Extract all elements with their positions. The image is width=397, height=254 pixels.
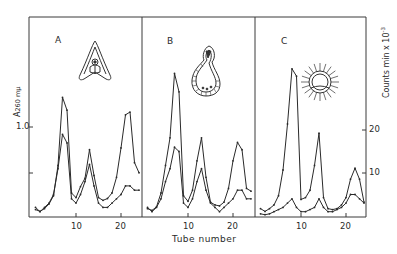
data-point: [345, 202, 347, 204]
data-point: [309, 209, 311, 211]
y-right-tick-10: 10: [369, 167, 380, 177]
data-point: [71, 198, 73, 200]
data-point: [66, 142, 68, 144]
data-point: [278, 209, 280, 211]
data-point: [178, 151, 180, 153]
data-point: [264, 214, 266, 216]
data-point: [309, 189, 311, 191]
data-point: [341, 207, 343, 209]
data-point: [48, 202, 50, 204]
data-point: [75, 197, 77, 199]
data-point: [363, 202, 365, 204]
data-point: [125, 185, 127, 187]
data-point: [196, 160, 198, 162]
data-point: [305, 197, 307, 199]
data-point: [260, 208, 262, 210]
y-left-tick-label: 1.0: [16, 121, 30, 131]
x-tick-a-10: 10: [71, 221, 82, 231]
panel-label-b: B: [167, 36, 173, 46]
data-point: [102, 207, 104, 209]
series-line-a-counts: [36, 134, 140, 211]
data-point: [129, 111, 131, 113]
data-point: [323, 197, 325, 199]
data-point: [214, 204, 216, 206]
data-point: [138, 172, 140, 174]
data-point: [174, 146, 176, 148]
y-axis-right-label-main: Counts min x 10: [382, 32, 391, 98]
data-point: [323, 207, 325, 209]
data-point: [336, 209, 338, 211]
x-tick-c-10: 10: [296, 221, 307, 231]
data-point: [296, 207, 298, 209]
data-point: [201, 137, 203, 139]
data-point: [39, 211, 41, 213]
y-axis-right-label-exp: -3: [380, 27, 386, 32]
data-point: [291, 68, 293, 70]
data-point: [241, 149, 243, 151]
data-point: [62, 96, 64, 98]
data-point: [269, 213, 271, 215]
data-point: [183, 202, 185, 204]
data-point: [134, 189, 136, 191]
data-point: [228, 188, 230, 190]
data-point: [129, 185, 131, 187]
data-point: [350, 194, 352, 196]
data-point: [237, 142, 239, 144]
data-point: [318, 132, 320, 134]
data-point: [232, 160, 234, 162]
data-point: [165, 165, 167, 167]
data-point: [241, 189, 243, 191]
data-point: [228, 202, 230, 204]
data-point: [246, 188, 248, 190]
data-point: [327, 208, 329, 210]
data-point: [93, 175, 95, 177]
data-point: [57, 168, 59, 170]
data-point: [116, 198, 118, 200]
x-tick-b-20: 20: [227, 221, 238, 231]
data-point: [278, 195, 280, 197]
y-axis-left-label-sub: 260 mμ: [14, 87, 22, 112]
x-tick-c-20: 20: [340, 221, 351, 231]
y-axis-right-label: Counts min x 10-3: [380, 27, 391, 98]
x-tick-b-10: 10: [183, 221, 194, 231]
data-point: [44, 207, 46, 209]
series-line-a-absorbance: [36, 97, 140, 211]
data-point: [359, 198, 361, 200]
data-point: [89, 149, 91, 151]
data-point: [205, 189, 207, 191]
data-point: [107, 198, 109, 200]
panel-label-a: A: [55, 35, 61, 45]
data-point: [98, 202, 100, 204]
data-point: [84, 181, 86, 183]
data-point: [354, 194, 356, 196]
data-point: [250, 198, 252, 200]
data-point: [165, 181, 167, 183]
data-point: [35, 209, 37, 211]
data-point: [223, 207, 225, 209]
data-point: [196, 181, 198, 183]
y-right-tick-20: 20: [369, 124, 380, 134]
data-point: [102, 199, 104, 201]
y-axis-left-label: A260 mμ: [13, 87, 22, 117]
x-axis-label: Tube number: [172, 234, 237, 244]
data-point: [300, 199, 302, 201]
data-point: [210, 202, 212, 204]
data-point: [178, 91, 180, 93]
data-point: [332, 211, 334, 213]
data-point: [232, 198, 234, 200]
data-point: [111, 202, 113, 204]
data-point: [62, 133, 64, 135]
data-point: [160, 198, 162, 200]
data-point: [237, 189, 239, 191]
data-point: [169, 137, 171, 139]
data-point: [75, 202, 77, 204]
data-point: [93, 185, 95, 187]
data-point: [89, 164, 91, 166]
data-point: [66, 109, 68, 111]
data-point: [98, 197, 100, 199]
data-point: [151, 211, 153, 213]
data-point: [246, 198, 248, 200]
data-point: [250, 190, 252, 192]
data-point: [125, 114, 127, 116]
data-point: [111, 192, 113, 194]
